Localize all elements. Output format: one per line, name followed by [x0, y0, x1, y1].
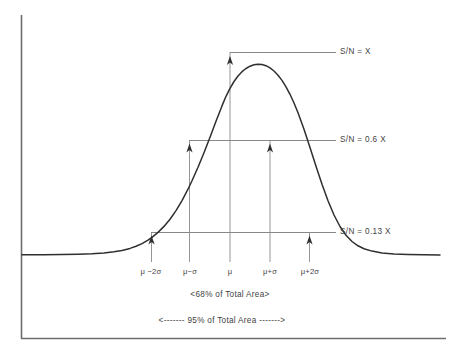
- tick-label-plus-sigma: μ+σ: [263, 268, 277, 276]
- tick-label-minus-two-sigma: μ −2σ: [141, 268, 162, 276]
- tick-label-plus-two-sigma: μ+2σ: [301, 268, 320, 276]
- annotation-95-percent-area: <------- 95% of Total Area ------->: [159, 317, 286, 325]
- tick-label-minus-sigma: μ−σ: [183, 268, 197, 276]
- annotation-68-percent-area: <68% of Total Area>: [190, 291, 269, 299]
- sn-label-sigma: S/N = 0.6 X: [340, 136, 386, 144]
- normal-distribution-figure: S/N = X S/N = 0.6 X S/N = 0.13 X μ −2σ μ…: [0, 0, 454, 355]
- sn-label-peak: S/N = X: [340, 48, 371, 56]
- tick-label-mu: μ: [228, 268, 233, 276]
- sn-label-two-sigma: S/N = 0.13 X: [340, 228, 391, 236]
- distribution-plot-svg: [0, 0, 454, 355]
- sigma-gridlines: [152, 52, 310, 262]
- level-arrowheads: [148, 56, 312, 245]
